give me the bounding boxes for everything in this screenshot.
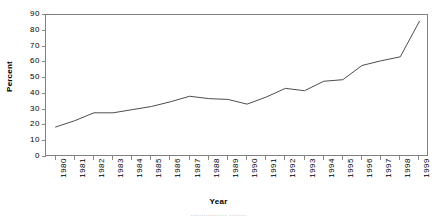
x-axis-tick-label: 1993 <box>308 158 317 192</box>
x-axis-tick-label: 1992 <box>288 158 297 192</box>
y-axis-tick-label: 10 <box>18 136 40 144</box>
y-axis-tick-label: 60 <box>18 57 40 65</box>
data-series-line <box>56 21 420 127</box>
x-axis-tick-label: 1982 <box>97 158 106 192</box>
data-line-svg <box>46 15 429 157</box>
y-axis-tick-label: 40 <box>18 89 40 97</box>
x-axis-tick-label: 1988 <box>212 158 221 192</box>
y-axis-tick-label: 30 <box>18 105 40 113</box>
clipped-caption: ................. ........ <box>0 210 437 217</box>
y-axis-tick-label: 70 <box>18 42 40 50</box>
x-axis-tick-label: 1984 <box>135 158 144 192</box>
x-axis-tick-label: 1990 <box>250 158 259 192</box>
x-axis-tick-label: 1991 <box>269 158 278 192</box>
x-axis-tick-label: 1985 <box>154 158 163 192</box>
x-axis-title: Year <box>0 197 437 206</box>
x-axis-tick-label: 1983 <box>116 158 125 192</box>
plot-area <box>45 14 428 156</box>
y-axis-tick-label: 0 <box>18 152 40 160</box>
x-axis-tick-label: 1996 <box>365 158 374 192</box>
x-axis-tick-label: 1994 <box>327 158 336 192</box>
y-axis-tick-label: 90 <box>18 10 40 18</box>
x-axis-tick-label: 1999 <box>422 158 431 192</box>
x-axis-tick-label: 1997 <box>384 158 393 192</box>
x-axis-tick-label: 1995 <box>346 158 355 192</box>
line-chart: Percent 0102030405060708090 198019811982… <box>0 0 437 217</box>
y-axis-tick-label: 80 <box>18 26 40 34</box>
x-axis-tick-label: 1981 <box>78 158 87 192</box>
x-axis-tick-label: 1980 <box>59 158 68 192</box>
x-axis-tick-labels: 1980198119821983198419851986198719881989… <box>45 160 428 194</box>
y-axis-title: Percent <box>5 47 14 107</box>
y-axis-tick-label: 20 <box>18 120 40 128</box>
y-axis-tick-label: 50 <box>18 73 40 81</box>
x-axis-tick-label: 1986 <box>173 158 182 192</box>
x-axis-tick-label: 1989 <box>231 158 240 192</box>
x-axis-tick-label: 1987 <box>193 158 202 192</box>
y-axis-tick-labels: 0102030405060708090 <box>18 0 40 217</box>
x-axis-tick-label: 1998 <box>403 158 412 192</box>
